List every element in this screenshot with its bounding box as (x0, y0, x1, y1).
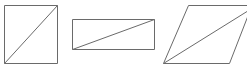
parallelogram-figure (164, 6, 248, 64)
parallelogram-diagonal (164, 12, 248, 64)
square-diagonal (5, 6, 58, 64)
parallelogram-outline (164, 6, 248, 64)
square-figure (5, 6, 58, 64)
diagram-canvas (0, 0, 247, 66)
rectangle-diagonal (73, 20, 155, 50)
rectangle-figure (73, 20, 155, 50)
